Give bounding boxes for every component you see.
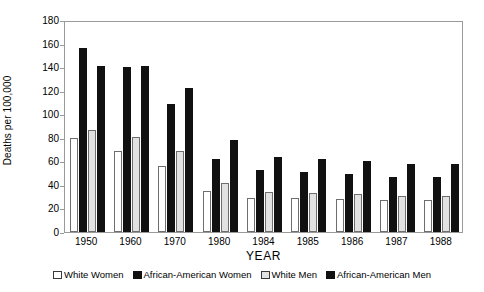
legend-label: White Women [64,270,123,280]
legend-item: White Women [53,270,123,280]
y-axis-title-label: Deaths per 100,000 [3,75,14,165]
bar [389,177,397,232]
bar [354,194,362,232]
bar [167,104,175,232]
bar [300,172,308,232]
y-tick-label: 120 [19,86,59,97]
bar [79,48,87,232]
bar [291,198,299,232]
legend-item: African-American Women [133,270,252,280]
legend-label: White Men [272,270,317,280]
bar-group [331,22,375,232]
legend-item: African-American Men [326,270,431,280]
bar [158,166,166,232]
legend-label: African-American Women [144,270,252,280]
legend-swatch-icon [53,271,62,279]
bar [433,177,441,232]
x-tick-label: 1960 [108,236,152,247]
x-tick-label: 1950 [64,236,108,247]
bar-chart: Deaths per 100,000 020406080100120140160… [0,0,484,292]
x-tick-label: 1980 [197,236,241,247]
bar-group [198,22,242,232]
bar [230,140,238,232]
bar-group [242,22,286,232]
y-tick-label: 100 [19,109,59,120]
bar [247,198,255,232]
bar [221,183,229,232]
bar [123,67,131,232]
legend-swatch-icon [261,271,270,279]
bar [185,88,193,232]
bar [318,159,326,232]
bar-group [65,22,109,232]
bar [345,174,353,232]
bar [309,193,317,232]
y-tick-label: 60 [19,156,59,167]
y-tick-label: 0 [19,227,59,238]
bar [203,191,211,232]
bar [212,159,220,232]
y-tick-label: 80 [19,133,59,144]
x-tick-label: 1984 [241,236,285,247]
x-tick-label: 1986 [330,236,374,247]
bar [265,192,273,232]
bar [70,138,78,232]
x-axis-title: YEAR [64,249,463,263]
x-tick-label: 1988 [419,236,463,247]
bar [97,66,105,232]
bar-group [287,22,331,232]
bar [407,164,415,232]
bar-group [154,22,198,232]
bar [380,200,388,232]
y-axis-title: Deaths per 100,000 [0,0,16,240]
plot-area [64,21,463,233]
bar [114,151,122,232]
bar [451,164,459,232]
bar-group [375,22,419,232]
y-tick-label: 160 [19,39,59,50]
bar [88,130,96,232]
y-tick-label: 140 [19,62,59,73]
legend-item: White Men [261,270,317,280]
y-tick-label: 20 [19,203,59,214]
x-tick-label: 1985 [286,236,330,247]
bar [176,151,184,232]
bar [141,66,149,232]
bar [132,137,140,232]
bar [336,199,344,232]
legend-swatch-icon [133,271,142,279]
y-tick-label: 180 [19,15,59,26]
bar [274,157,282,232]
legend-label: African-American Men [337,270,431,280]
x-tick-label: 1970 [153,236,197,247]
bar [256,170,264,232]
y-tick-label: 40 [19,180,59,191]
x-tick-label: 1987 [374,236,418,247]
bar [363,161,371,232]
x-axis-ticks: 195019601970198019841985198619871988 [64,234,463,250]
bar [424,200,432,232]
chart-legend: White WomenAfrican-American WomenWhite M… [0,270,484,280]
bar-group [109,22,153,232]
bar-group [420,22,464,232]
legend-swatch-icon [326,271,335,279]
bar [398,196,406,233]
bars-layer [65,22,462,232]
bar [442,196,450,233]
